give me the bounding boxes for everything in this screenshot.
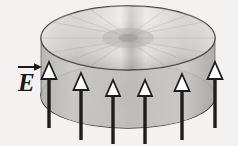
top-disk [41, 6, 215, 70]
top-disk-texture [41, 6, 215, 70]
electric-field-diagram [0, 0, 238, 146]
field-label-E: E [18, 70, 35, 95]
figure-canvas: E [0, 0, 238, 146]
